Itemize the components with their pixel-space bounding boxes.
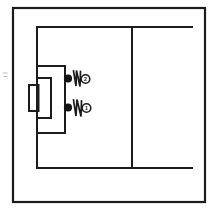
penalty-area-box: [37, 27, 192, 168]
diagram-canvas: 2 1: [0, 0, 220, 210]
movement-squiggle-lower: [74, 100, 82, 117]
player-marker-lower: 1: [64, 100, 91, 117]
tactical-diagram-svg: 2 1: [0, 0, 220, 210]
player-dot-lower: [64, 103, 72, 111]
marker-badge-lower-number: 1: [85, 105, 88, 111]
player-dot-upper: [64, 74, 72, 82]
outer-frame-border: [13, 8, 205, 202]
movement-squiggle-upper: [74, 71, 81, 87]
faint-margin-marks: [3, 73, 7, 77]
player-marker-upper: 2: [64, 71, 90, 87]
marker-badge-upper-number: 2: [84, 76, 87, 82]
